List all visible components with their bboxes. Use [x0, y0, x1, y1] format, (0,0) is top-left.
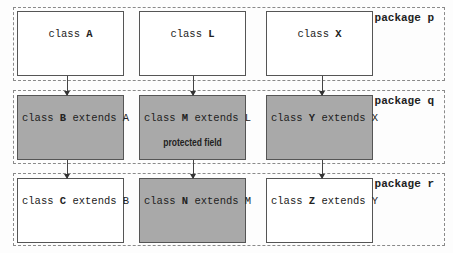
class-title: class A [18, 28, 123, 40]
class-box-b: class B extends A [17, 95, 124, 160]
class-box-m: class M extends L protected field [139, 95, 246, 160]
class-title: class L [140, 28, 245, 40]
class-box-n: class N extends M [139, 178, 246, 243]
class-title: class Z extends Y [271, 195, 372, 207]
inheritance-arrow-m-n [193, 160, 194, 178]
class-title: class X [267, 28, 372, 40]
inheritance-arrow-b-c [67, 160, 68, 178]
class-box-x: class X [266, 11, 373, 76]
class-title: class Y extends X [271, 112, 372, 124]
class-title: class C extends B [22, 195, 123, 207]
class-box-c: class C extends B [17, 178, 124, 243]
class-box-a: class A [17, 11, 124, 76]
package-label: package q [375, 95, 434, 107]
inheritance-arrow-y-z [322, 160, 323, 178]
inheritance-arrow-a-b [67, 76, 68, 95]
package-label: package r [375, 178, 434, 190]
inheritance-arrow-x-y [322, 76, 323, 95]
class-title: class M extends L [144, 112, 245, 124]
class-box-z: class Z extends Y [266, 178, 373, 243]
class-title: class N extends M [144, 195, 245, 207]
protected-field-note: protected field [148, 137, 237, 148]
package-label: package p [375, 12, 434, 24]
class-box-l: class L [139, 11, 246, 76]
class-box-y: class Y extends X [266, 95, 373, 160]
inheritance-arrow-l-m [193, 76, 194, 95]
class-title: class B extends A [22, 112, 123, 124]
